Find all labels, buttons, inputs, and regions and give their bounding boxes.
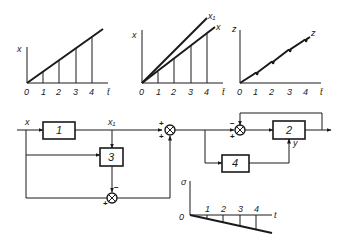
origin-label: 0 <box>24 87 29 97</box>
block-3-label: 3 <box>108 151 115 163</box>
sum2-minus-sign: − <box>230 119 235 128</box>
chart-x-x1: x x₁ x 0 1 2 3 4 t̄ <box>131 11 226 97</box>
tick-label-1: 1 <box>253 87 258 97</box>
tick-label-3: 3 <box>73 87 78 97</box>
diagram-canvas: x 0 1 2 3 4 t̄ x x₁ x 0 1 2 3 4 t̄ z z 0… <box>0 0 350 249</box>
tick-label-2: 2 <box>220 204 226 214</box>
tick-label-2: 2 <box>268 87 274 97</box>
sum1-plus-sign-top: + <box>159 119 164 128</box>
sum3-minus-sign: − <box>114 183 119 192</box>
origin-label: 0 <box>237 87 242 97</box>
origin-label: 0 <box>179 212 184 222</box>
x-axis-label: t̄ <box>222 87 226 97</box>
input-label: x <box>24 117 30 127</box>
tick-label-1: 1 <box>156 87 161 97</box>
chart-z: z z 0 1 2 3 4 t̄ <box>231 24 324 97</box>
tick-label-4: 4 <box>254 204 259 214</box>
tick-label-3: 3 <box>238 204 243 214</box>
tick-label-1: 1 <box>205 204 210 214</box>
curve-x <box>142 27 215 83</box>
x-axis-label: t̄ <box>320 87 324 97</box>
sum1-plus-sign-bottom: + <box>159 132 164 141</box>
curve-label-z: z <box>310 28 316 38</box>
tick-label-1: 1 <box>41 87 46 97</box>
tick-label-3: 3 <box>287 87 292 97</box>
x-axis-label: t̄ <box>107 87 111 97</box>
chart-sigma: σ 0 1 2 3 4 t <box>179 177 277 233</box>
x-axis-label: t <box>274 210 277 220</box>
tick-label-4: 4 <box>303 87 308 97</box>
block-diagram: x 1 x₁ 3 − + + + <box>17 113 331 208</box>
tick-label-2: 2 <box>170 87 176 97</box>
curve-label-x1: x₁ <box>207 11 216 21</box>
tick-label-3: 3 <box>188 87 193 97</box>
origin-label: 0 <box>139 87 144 97</box>
block-1-label: 1 <box>56 124 62 136</box>
sum2-plus-sign: + <box>230 132 235 141</box>
tick-label-4: 4 <box>89 87 94 97</box>
x1-label: x₁ <box>107 117 116 127</box>
curve-z <box>240 37 310 83</box>
curve-label-x: x <box>215 22 221 32</box>
y-axis-label: x <box>16 44 22 54</box>
y-axis-label: σ <box>181 177 187 187</box>
tick-label-2: 2 <box>55 87 61 97</box>
tick-label-4: 4 <box>204 87 209 97</box>
chart-x: x 0 1 2 3 4 t̄ <box>16 29 111 97</box>
block-2-label: 2 <box>285 124 292 136</box>
y-axis-label: z <box>231 24 237 34</box>
curve-sigma <box>190 215 272 233</box>
block-4-label: 4 <box>232 157 238 169</box>
y-axis-label: x <box>131 30 137 40</box>
